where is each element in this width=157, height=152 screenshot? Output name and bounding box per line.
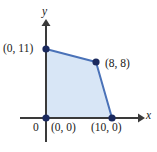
x-axis-label: x [146,110,151,122]
vertex-dot-8-8 [92,58,99,65]
coordinate-plane-figure: (0, 11) (8, 8) (0, 0) (10, 0) 0 x y [0,0,157,152]
vertex-label-10-0: (10, 0) [91,122,122,134]
vertex-dot-0-0 [42,114,49,121]
y-axis-arrowhead [42,19,51,26]
vertex-dot-0-11 [42,45,49,52]
y-axis-label: y [42,6,47,18]
figure-canvas [0,0,157,152]
origin-tick-label: 0 [33,122,39,134]
feasible-region-polygon [46,49,112,118]
vertex-label-0-0: (0, 0) [51,122,76,134]
x-axis-arrowhead [138,114,145,123]
vertex-label-0-11: (0, 11) [3,43,33,55]
vertex-label-8-8: (8, 8) [105,58,130,70]
